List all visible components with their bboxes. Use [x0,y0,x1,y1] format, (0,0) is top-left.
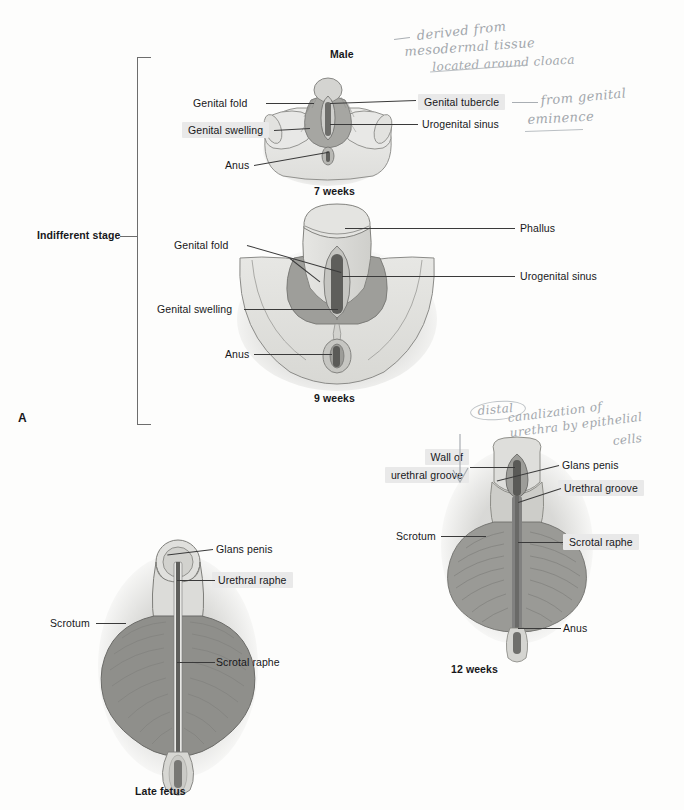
label-urethral-groove-12w-text: Urethral groove [558,480,644,496]
label-genital-tubercle-7w-text: Genital tubercle [418,94,505,110]
label-scrotum-12w: Scrotum [396,530,436,543]
label-scrotal-raphe-12w-text: Scrotal raphe [563,534,639,550]
label-genital-swelling-7w: Genital swelling [182,124,269,137]
label-anus-12w: Anus [563,622,587,635]
label-genital-tubercle-7w: Genital tubercle [418,96,505,109]
caption-seven-weeks: 7 weeks [314,185,355,198]
leader-phallus-9w [345,228,515,229]
leader-genital-fold-7w [266,103,314,104]
caption-twelve-weeks: 12 weeks [451,663,498,676]
leader-urogenital-sinus-9w [342,276,515,277]
indifferent-stage-bracket [137,57,151,425]
label-phallus-9w: Phallus [520,222,555,235]
figure-seven-weeks [255,72,405,192]
panel-letter-a: A [18,412,27,425]
label-anus-9w: Anus [225,348,249,361]
leader-scrotal-raphe-12w [518,542,563,543]
leader-scrotum-lf [96,623,126,624]
panel-title-male: Male [330,48,354,61]
label-urethral-raphe-lf: Urethral raphe [212,574,293,587]
label-glans-penis-lf: Glans penis [216,543,273,556]
handwriting-eminence-line2: eminence [527,109,594,127]
figure-nine-weeks [232,214,442,394]
label-glans-penis-12w: Glans penis [562,459,619,472]
caption-late-fetus: Late fetus [135,785,186,798]
leader-scrotum-12w [441,536,486,537]
leader-urogenital-sinus-7w [330,124,418,125]
indifferent-stage-label: Indifferent stage [37,229,120,242]
handwriting-eminence-underline [525,129,583,132]
label-urogenital-sinus-7w: Urogenital sinus [422,118,499,131]
leader-anus-9w [254,354,332,355]
label-scrotum-lf: Scrotum [50,617,90,630]
label-genital-swelling-7w-text: Genital swelling [182,122,269,138]
label-scrotal-raphe-12w: Scrotal raphe [563,536,639,549]
handwriting-eminence-line1: from genital [540,86,627,108]
label-urethral-raphe-lf-text: Urethral raphe [212,572,293,588]
caption-nine-weeks: 9 weeks [314,392,355,405]
label-wall-of-urethral-groove-line2: urethral groove [340,469,469,482]
leader-urethral-raphe-lf [177,580,215,581]
handwriting-eminence-dash [512,102,538,103]
handwriting-down-arrow [452,432,486,488]
label-scrotal-raphe-lf: Scrotal raphe [216,656,280,669]
label-urethral-groove-12w: Urethral groove [558,482,644,495]
label-anus-7w: Anus [225,159,249,172]
label-genital-fold-9w: Genital fold [174,239,228,252]
label-urogenital-sinus-9w: Urogenital sinus [520,270,597,283]
label-genital-fold-7w: Genital fold [193,97,247,110]
leader-genital-swelling-9w [244,309,338,310]
label-genital-swelling-9w: Genital swelling [157,303,232,316]
indifferent-stage-bracket-stem [120,236,137,237]
handwriting-canalization-line4: cells [612,431,643,449]
figure-page: Indifferent stage A Male [0,0,684,810]
leader-anus-12w [518,628,561,629]
leader-scrotal-raphe-lf [177,662,215,663]
handwriting-mesoderm-dash [394,37,410,40]
handwriting-mesoderm-line3: located around cloaca [432,53,575,75]
